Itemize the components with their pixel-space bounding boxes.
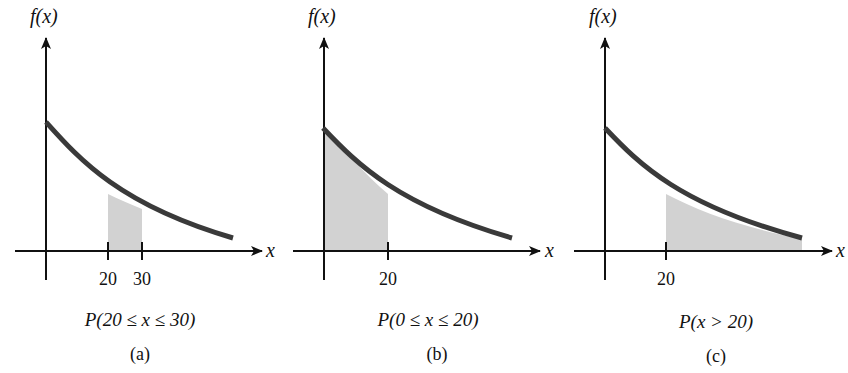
panel-b-plot <box>293 38 540 280</box>
y-axis-label: f(x) <box>30 6 58 26</box>
y-axis-label: f(x) <box>589 6 617 26</box>
tick-label-20: 20 <box>379 270 397 288</box>
panel-c-plot <box>574 38 832 280</box>
tick-label-20: 20 <box>657 270 675 288</box>
shaded-area <box>324 128 388 251</box>
shaded-area <box>108 194 142 251</box>
x-axis-label: x <box>836 240 845 260</box>
probability-expression: P(x > 20) <box>679 311 753 332</box>
tick-label-20: 20 <box>99 270 117 288</box>
tick-label-30: 30 <box>133 270 151 288</box>
y-axis-label: f(x) <box>308 6 336 26</box>
probability-expression: P(0 ≤ x ≤ 20) <box>377 309 478 330</box>
panel-label: (b) <box>427 345 448 363</box>
panel-a-plot <box>15 38 262 280</box>
panel-label: (a) <box>130 345 150 363</box>
panel-label: (c) <box>706 347 726 365</box>
probability-caption: P(20 ≤ x ≤ 30) <box>85 310 196 329</box>
probability-caption: P(0 ≤ x ≤ 20) <box>377 310 478 329</box>
x-axis-label: x <box>266 240 275 260</box>
shaded-area <box>666 194 802 251</box>
probability-expression: P(20 ≤ x ≤ 30) <box>85 309 196 330</box>
probability-caption: P(x > 20) <box>679 312 753 331</box>
x-axis-label: x <box>545 240 554 260</box>
